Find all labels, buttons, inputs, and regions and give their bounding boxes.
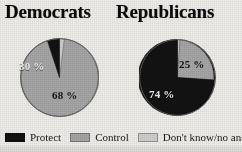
pie-chart-republicans [139,39,216,116]
pie-democrats-svg [20,38,99,117]
legend-item-control: Control [70,131,129,143]
chart-titles: Democrats Republicans [0,0,242,26]
legend-item-dont-know: Don't know/no answer [138,131,242,143]
pie-republicans-svg [139,39,216,116]
legend-swatch-dont-know-icon [138,133,158,142]
chart-legend: Protect Control Don't know/no answer [0,128,242,146]
pie-title-democrats: Democrats [5,1,91,23]
legend-swatch-protect-icon [5,133,25,142]
pie-label-republicans-control: 25 % [179,58,205,70]
pie-label-democrats-control: 68 % [52,89,78,101]
chart-canvas: Democrats Republicans 30 % 68 % 2 [0,0,242,152]
pie-label-republicans-protect: 74 % [149,88,175,100]
bottom-edge-band [0,146,242,152]
pie-title-republicans: Republicans [116,1,214,23]
legend-item-protect: Protect [5,131,61,143]
legend-label-dont-know: Don't know/no answer [163,131,242,143]
legend-swatch-control-icon [70,133,90,142]
legend-label-protect: Protect [30,131,61,143]
legend-label-control: Control [95,131,129,143]
pie-chart-democrats [20,38,99,117]
pie-label-democrats-protect: 30 % [19,60,45,72]
